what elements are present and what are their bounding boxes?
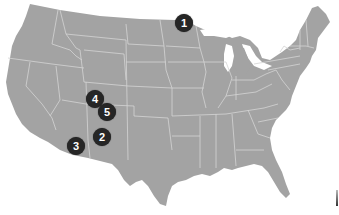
map-marker-1[interactable]: 1 [175,14,193,32]
edge-mark [336,190,338,206]
us-map [0,0,339,215]
map-marker-2[interactable]: 2 [93,128,111,146]
map-marker-5[interactable]: 5 [98,103,116,121]
map-marker-3[interactable]: 3 [67,137,85,155]
us-landmass [6,4,330,206]
